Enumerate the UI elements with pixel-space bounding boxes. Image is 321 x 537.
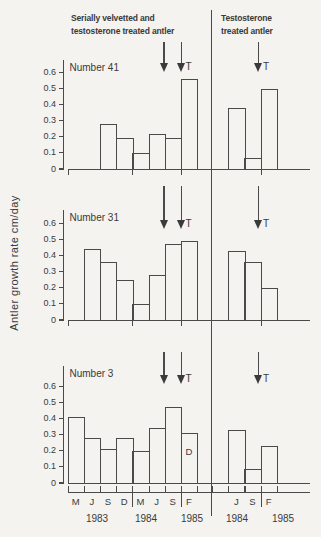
panel-2-ytick-label-0.6: 0.6	[36, 218, 56, 229]
timeline-tick-right-1	[228, 486, 229, 493]
panel-1-left-arrow-0-shaft	[163, 42, 164, 64]
panel-1-ytick-label-0.4: 0.4	[36, 99, 56, 110]
panel-2-ytick-mark-0.3	[59, 271, 64, 272]
panel-1-ytick-label-0.1: 0.1	[36, 147, 56, 158]
panel-1-left-arrow-1-head-icon	[177, 63, 185, 72]
panel-1-left-bar-5	[149, 134, 167, 169]
panel-3-left-treatment-label: T	[186, 373, 192, 384]
panel-1-left-bar-7	[181, 79, 199, 169]
xtick-month-left-3: D	[116, 496, 132, 507]
xtick-month-left-7: F	[181, 496, 197, 507]
panel-1-x-axis	[68, 169, 311, 170]
panel-2-ytick-label-0.1: 0.1	[36, 298, 56, 309]
left-group-header-line1: Serially velvetted and	[71, 12, 174, 25]
panel-3-left-bar-7	[181, 433, 199, 483]
panel-2-xtick-year-2	[181, 321, 182, 326]
panel-3-ytick-mark-0.4	[59, 418, 64, 419]
panel-2-left-treatment-label: T	[186, 218, 192, 229]
panel-2-ytick-label-0: 0	[36, 315, 56, 326]
timeline-tick-left-1	[84, 486, 85, 493]
group-divider-line	[211, 10, 212, 516]
xtick-month-left-2: S	[100, 496, 116, 507]
timeline-tick-left-3	[116, 486, 117, 493]
panel-2-y-axis	[63, 210, 64, 321]
panel-2-left-arrow-0-head-icon	[160, 220, 168, 229]
timeline-tick-right-4	[277, 486, 278, 493]
panel-3-ytick-label-0.6: 0.6	[36, 381, 56, 392]
antler-growth-figure: Serially velvetted and testosterone trea…	[0, 0, 321, 537]
panel-1-right-arrow-0-head-icon	[254, 63, 262, 72]
panel-1-right-bar-1	[228, 108, 246, 169]
panel-3-left-bar-4	[132, 451, 150, 483]
panel-1-right-bar-2	[244, 158, 262, 169]
panel-1-ytick-label-0.6: 0.6	[36, 67, 56, 78]
panel-3-left-bar-2	[100, 449, 118, 483]
timeline-tick-left-6	[165, 486, 166, 493]
panel-2-ytick-mark-0	[59, 319, 64, 320]
panel-2-right-bar-3	[261, 288, 279, 320]
panel-3-right-arrow-0-shaft	[258, 352, 259, 376]
panel-3-y-axis	[63, 366, 64, 484]
panel-3-left-arrow-0-head-icon	[160, 375, 168, 384]
panel-2-ytick-label-0.4: 0.4	[36, 250, 56, 261]
panel-3-right-arrow-0-head-icon	[254, 375, 262, 384]
panel-3-left-arrow-0-shaft	[163, 352, 164, 376]
panel-2-xtick-year-0	[68, 321, 69, 326]
xtick-month-right-2: S	[244, 496, 260, 507]
panel-2-xtick-year-3	[261, 321, 262, 326]
y-axis-title: Antler growth rate cm/day	[8, 195, 20, 330]
xtick-month-left-6: S	[165, 496, 181, 507]
panel-2-right-arrow-0-head-icon	[254, 220, 262, 229]
panel-1-right-arrow-0-shaft	[258, 42, 259, 64]
panel-1-ytick-mark-0	[59, 168, 64, 169]
panel-1-ytick-mark-0.3	[59, 120, 64, 121]
panel-1-y-axis	[63, 60, 64, 170]
panel-2-ytick-label-0.3: 0.3	[36, 266, 56, 277]
panel-2-left-arrow-1-shaft	[181, 186, 182, 221]
left-group-header-line2: testosterone treated antler	[71, 25, 174, 38]
xtick-month-left-4: M	[132, 496, 148, 507]
panel-1-ytick-label-0.3: 0.3	[36, 115, 56, 126]
panel-1-left-bar-6	[165, 138, 183, 169]
panel-3-bar-note: D	[186, 447, 193, 457]
panel-1-ytick-label-0.5: 0.5	[36, 83, 56, 94]
panel-2-ytick-mark-0.2	[59, 287, 64, 288]
panel-3-left-bar-0	[68, 417, 86, 483]
panel-2-left-bar-6	[165, 244, 183, 320]
panel-3-right-treatment-label: T	[263, 373, 269, 384]
panel-2-xtick-year-1	[132, 321, 133, 326]
panel-3-ytick-mark-0.2	[59, 450, 64, 451]
panel-1-left-bar-2	[100, 124, 118, 169]
panel-3-ytick-mark-0	[59, 482, 64, 483]
panel-2-ytick-label-0.2: 0.2	[36, 282, 56, 293]
panel-1-ytick-label-0: 0	[36, 164, 56, 175]
right-group-header-line1: Testosterone	[221, 12, 273, 25]
xtick-month-left-1: J	[84, 496, 100, 507]
panel-2-ytick-mark-0.4	[59, 255, 64, 256]
panel-3-ytick-mark-0.1	[59, 466, 64, 467]
panel-3-ytick-mark-0.3	[59, 434, 64, 435]
right-group-header: Testosterone treated antler	[221, 12, 273, 38]
panel-2-right-bar-1	[228, 251, 246, 320]
xtick-month-left-5: J	[149, 496, 165, 507]
panel-3-ytick-mark-0.5	[59, 402, 64, 403]
panel-2-left-bar-1	[84, 249, 102, 320]
panel-1-xtick-year-3	[261, 170, 262, 175]
panel-1-title: Number 41	[70, 62, 119, 73]
panel-1-xtick-year-1	[132, 170, 133, 175]
panel-3-right-bar-2	[244, 469, 262, 483]
panel-2-left-bar-2	[100, 262, 118, 320]
xtick-year-left-1984: 1984	[135, 513, 157, 524]
panel-1-ytick-mark-0.6	[59, 72, 64, 73]
xtick-month-right-3: F	[261, 496, 277, 507]
panel-2-ytick-label-0.5: 0.5	[36, 234, 56, 245]
panel-3-ytick-label-0.3: 0.3	[36, 429, 56, 440]
panel-1-ytick-label-0.2: 0.2	[36, 131, 56, 142]
xtick-month-right-1: J	[228, 496, 244, 507]
panel-1-xtick-year-0	[68, 170, 69, 175]
panel-1-right-treatment-label: T	[263, 61, 269, 72]
panel-1-left-arrow-1-shaft	[181, 42, 182, 64]
timeline-tick-left-8	[197, 486, 198, 493]
panel-3-ytick-label-0: 0	[36, 478, 56, 489]
xtick-year-left-1983: 1983	[86, 513, 108, 524]
